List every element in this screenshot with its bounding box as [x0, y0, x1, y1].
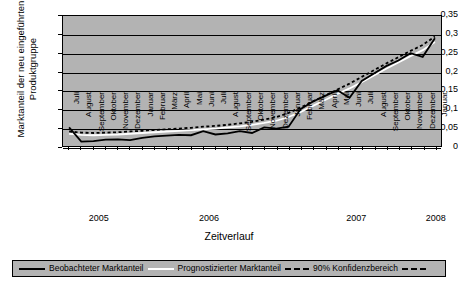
x-axis-tick-mark	[252, 147, 253, 150]
x-axis-tick-label: September	[391, 92, 401, 150]
x-axis-tick-label: Oktober	[256, 92, 266, 150]
x-axis-tick-mark	[350, 147, 351, 150]
legend-item-confidence: 90% Konfidenzbereich	[285, 264, 426, 273]
y-axis-tick-mark	[58, 147, 62, 148]
x-axis-tick-label: Juli	[366, 92, 376, 150]
x-axis-tick-label: Juni	[207, 92, 217, 150]
x-axis-tick-label: Januar	[440, 92, 450, 150]
x-axis-tick-mark	[375, 147, 376, 150]
x-axis-tick-mark	[399, 147, 400, 150]
x-axis-tick-label: April	[330, 92, 340, 150]
x-axis-tick-mark	[338, 147, 339, 150]
legend-label-observed: Beobachteter Marktanteil	[49, 264, 144, 273]
x-axis-tick-label: September	[244, 92, 254, 150]
x-axis-tick-mark	[436, 147, 437, 150]
x-axis-tick-mark	[215, 147, 216, 150]
x-axis-tick-mark	[387, 147, 388, 150]
x-axis-tick-mark	[178, 147, 179, 150]
x-axis-tick-label: Mai	[195, 92, 205, 150]
x-axis-tick-mark	[142, 147, 143, 150]
x-axis-tick-label: April	[182, 92, 192, 150]
x-axis-tick-mark	[93, 147, 94, 150]
x-axis-tick-mark	[411, 147, 412, 150]
legend-item-observed: Beobachteter Marktanteil	[19, 264, 144, 273]
x-axis-tick-mark	[240, 147, 241, 150]
chart-container: Marktanteil der neu eingeführten Produkt…	[0, 0, 458, 282]
x-axis-year-label: 2006	[189, 213, 229, 223]
x-axis-tick-mark	[117, 147, 118, 150]
x-axis-tick-mark	[313, 147, 314, 150]
chart-legend: Beobachteter Marktanteil Prognostizierte…	[12, 260, 446, 277]
x-axis-tick-mark	[80, 147, 81, 150]
x-axis-tick-mark	[289, 147, 290, 150]
x-axis-tick-label: März	[317, 92, 327, 150]
x-axis-tick-label: Februar	[305, 92, 315, 150]
x-axis-tick-label: Mai	[342, 92, 352, 150]
x-axis-tick-label: Januar	[146, 92, 156, 150]
x-axis-tick-mark	[105, 147, 106, 150]
x-axis-tick-label: Juni	[354, 92, 364, 150]
x-axis-tick-mark	[129, 147, 130, 150]
x-axis-tick-label: Oktober	[403, 92, 413, 150]
x-axis-tick-mark	[301, 147, 302, 150]
x-axis-year-label: 2007	[336, 213, 376, 223]
legend-label-forecast: Prognostizierter Marktanteil	[178, 264, 281, 273]
x-axis-year-label: 2005	[79, 213, 119, 223]
x-axis-tick-mark	[191, 147, 192, 150]
y-axis-title-line2: Produktgruppe	[27, 0, 45, 149]
legend-item-forecast: Prognostizierter Marktanteil	[148, 264, 281, 273]
x-axis-tick-mark	[362, 147, 363, 150]
x-axis-tick-label: November	[121, 92, 131, 150]
x-axis-tick-mark	[203, 147, 204, 150]
x-axis-tick-label: Februar	[158, 92, 168, 150]
x-axis-tick-label: Dezember	[428, 92, 438, 150]
legend-key-dashed-line-icon-right	[402, 268, 426, 270]
x-axis-tick-label: Dezember	[281, 92, 291, 150]
x-axis-tick-label: Oktober	[109, 92, 119, 150]
x-axis-tick-mark	[227, 147, 228, 150]
x-axis-tick-label: Dezember	[133, 92, 143, 150]
x-axis-tick-label: August	[84, 92, 94, 150]
legend-key-solid-line-icon	[19, 268, 45, 270]
x-axis-tick-label: März	[170, 92, 180, 150]
x-axis-tick-mark	[326, 147, 327, 150]
x-axis-tick-mark	[424, 147, 425, 150]
x-axis-tick-mark	[277, 147, 278, 150]
x-axis-tick-label: August	[379, 92, 389, 150]
x-axis-title: Zeitverlauf	[0, 230, 458, 242]
x-axis-tick-label: September	[97, 92, 107, 150]
x-axis-tick-mark	[264, 147, 265, 150]
x-axis-year-label: 2008	[416, 213, 456, 223]
x-axis-tick-label: Juli	[219, 92, 229, 150]
legend-label-confidence: 90% Konfidenzbereich	[313, 264, 398, 273]
x-axis-tick-label: August	[231, 92, 241, 150]
x-axis-tick-mark	[154, 147, 155, 150]
legend-key-white-line-icon	[148, 268, 174, 270]
x-axis-tick-mark	[166, 147, 167, 150]
x-axis-tick-label: November	[268, 92, 278, 150]
x-axis-tick-label: November	[415, 92, 425, 150]
legend-key-dashed-line-icon	[285, 268, 309, 270]
x-axis-tick-label: Januar	[293, 92, 303, 150]
x-axis-tick-mark	[68, 147, 69, 150]
x-axis-tick-label: Juli	[72, 92, 82, 150]
